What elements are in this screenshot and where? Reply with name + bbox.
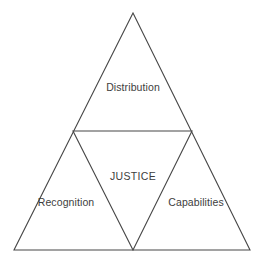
region-label-capabilities: Capabilities	[168, 197, 223, 208]
region-label-distribution: Distribution	[106, 82, 160, 93]
inner-inverted-triangle-shape	[73, 131, 192, 250]
region-label-recognition: Recognition	[38, 197, 95, 208]
center-label-justice: JUSTICE	[110, 171, 156, 182]
triangle-graphic	[0, 0, 260, 263]
justice-triangle-diagram: Distribution JUSTICE Recognition Capabil…	[0, 0, 260, 263]
